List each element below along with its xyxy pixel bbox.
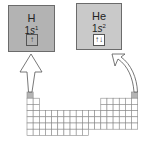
element-cell [45,117,51,123]
element-cell [70,111,76,117]
element-cell [95,123,101,129]
element-cell [89,123,95,129]
helium-arrow-icon [112,54,138,92]
element-cell [58,111,64,117]
element-cell [45,123,51,129]
element-cell [125,104,131,110]
element-cell [107,117,113,123]
helium-symbol: He [77,10,121,22]
hydrogen-orbital-box: ↑ [26,34,38,46]
element-cell [82,129,88,135]
element-cell [89,111,95,117]
element-cell [113,123,119,129]
element-cell [119,117,125,123]
helium-element-box: He 1s2 ↑↓ [76,3,122,50]
element-cell [45,129,51,135]
hydrogen-cell [27,92,33,98]
element-cell [113,98,119,104]
helium-cell [132,92,138,98]
element-cell [33,123,39,129]
element-cell [95,111,101,117]
element-cell [33,111,39,117]
hydrogen-symbol: H [9,12,54,24]
element-cell [70,129,76,135]
element-cell [101,117,107,123]
helium-electron-config: 1s2 [77,23,121,34]
helium-orbital-box: ↑↓ [93,34,105,46]
element-cell [39,129,45,135]
periodic-table-grid [27,92,138,135]
element-cell [33,117,39,123]
element-cell [27,111,33,117]
element-cell [64,117,70,123]
element-cell [52,117,58,123]
element-cell [125,117,131,123]
element-cell [27,129,33,135]
element-cell [45,111,51,117]
element-cell [64,123,70,129]
element-cell [39,117,45,123]
element-cell [132,98,138,104]
element-cell [70,123,76,129]
element-cell [125,123,131,129]
element-cell [33,129,39,135]
element-cell [52,111,58,117]
element-cell [113,111,119,117]
element-cell [52,129,58,135]
element-cell [64,129,70,135]
element-cell [119,104,125,110]
element-cell [27,98,33,104]
element-cell [33,104,39,110]
element-cell [113,104,119,110]
hydrogen-element-box: H 1s1 ↑ [8,5,55,52]
element-cell [82,123,88,129]
element-cell [33,98,39,104]
element-cell [95,117,101,123]
element-cell [125,98,131,104]
element-cell [64,111,70,117]
spin-pair-arrows-icon: ↑↓ [95,35,103,44]
element-cell [58,123,64,129]
element-cell [107,123,113,129]
element-cell [113,117,119,123]
element-cell [119,111,125,117]
element-cell [76,123,82,129]
element-cell [76,117,82,123]
element-cell [107,104,113,110]
element-cell [101,111,107,117]
element-cell [70,117,76,123]
element-cell [82,111,88,117]
element-cell [119,123,125,129]
element-cell [27,123,33,129]
element-cell [27,117,33,123]
element-cell [132,111,138,117]
element-cell [39,123,45,129]
element-cell [132,104,138,110]
element-cell [39,111,45,117]
element-cell [58,117,64,123]
element-cell [58,129,64,135]
element-cell [76,129,82,135]
element-cell [76,111,82,117]
element-cell [27,104,33,110]
element-cell [107,98,113,104]
element-cell [82,117,88,123]
element-cell [119,98,125,104]
spin-up-arrow-icon: ↑ [30,35,34,44]
element-cell [52,123,58,129]
element-cell [132,123,138,129]
hydrogen-arrow-icon [20,54,42,92]
element-cell [125,111,131,117]
element-cell [101,104,107,110]
element-cell [101,123,107,129]
element-cell [101,98,107,104]
element-cell [132,117,138,123]
element-cell [89,117,95,123]
element-cell [107,111,113,117]
